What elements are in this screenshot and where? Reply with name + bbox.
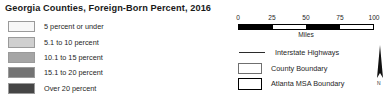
- legend-label-class-2: 5.1 to 10 percent: [44, 38, 99, 47]
- north-arrow-icon: N: [376, 44, 390, 88]
- legend-swatch-class-4: [8, 67, 35, 78]
- map-title: Georgia Counties, Foreign-Born Percent, …: [5, 2, 211, 14]
- interstate-highway-line-icon: [238, 47, 266, 59]
- legend-label-class-1: 5 percent or under: [44, 22, 104, 31]
- symbol-label-county-boundary: County Boundary: [271, 64, 327, 73]
- scale-bar-tick-labels: 0 25 50 75 100: [238, 14, 374, 23]
- legend-swatch-class-1: [8, 21, 35, 32]
- scale-bar-units-label: Miles: [238, 31, 374, 39]
- scale-bar-segment: [340, 25, 374, 29]
- legend-label-class-5: Over 20 percent: [44, 84, 96, 93]
- legend-label-class-4: 15.1 to 20 percent: [44, 68, 103, 77]
- scale-tick-50: 50: [302, 14, 309, 22]
- scale-bar-segment: [306, 25, 340, 29]
- scale-tick-100: 100: [368, 14, 379, 22]
- symbol-legend: Interstate Highways County Boundary Atla…: [238, 45, 390, 92]
- map-elements-column: 0 25 50 75 100 Miles Interstate Highways: [238, 14, 390, 40]
- symbol-label-interstate-highways: Interstate Highways: [275, 48, 339, 57]
- legend-class-row: 15.1 to 20 percent: [8, 65, 188, 80]
- choropleth-legend: 5 percent or under 5.1 to 10 percent 10.…: [8, 19, 188, 96]
- legend-swatch-class-2: [8, 37, 35, 48]
- scale-bar: 0 25 50 75 100 Miles: [238, 14, 374, 40]
- legend-class-row: 5.1 to 10 percent: [8, 34, 188, 49]
- svg-text:N: N: [377, 80, 381, 86]
- scale-bar-segment: [273, 25, 307, 29]
- legend-class-row: Over 20 percent: [8, 81, 188, 96]
- symbol-label-atlanta-msa-boundary: Atlanta MSA Boundary: [271, 79, 344, 88]
- map-legend-panel: Georgia Counties, Foreign-Born Percent, …: [0, 0, 390, 99]
- scale-bar-track: [238, 24, 374, 30]
- symbol-legend-row: Atlanta MSA Boundary: [238, 76, 390, 92]
- scale-bar-segment: [239, 25, 273, 29]
- scale-tick-0: 0: [236, 14, 240, 22]
- symbol-legend-row: County Boundary: [238, 61, 390, 77]
- symbol-legend-row: Interstate Highways: [238, 45, 390, 61]
- atlanta-msa-boundary-box-icon: [238, 78, 262, 90]
- legend-swatch-class-3: [8, 52, 35, 63]
- scale-tick-75: 75: [336, 14, 343, 22]
- scale-tick-25: 25: [268, 14, 275, 22]
- legend-swatch-class-5: [8, 83, 35, 94]
- county-boundary-box-icon: [238, 63, 262, 74]
- legend-class-row: 10.1 to 15 percent: [8, 50, 188, 65]
- legend-label-class-3: 10.1 to 15 percent: [44, 53, 103, 62]
- legend-class-row: 5 percent or under: [8, 19, 188, 34]
